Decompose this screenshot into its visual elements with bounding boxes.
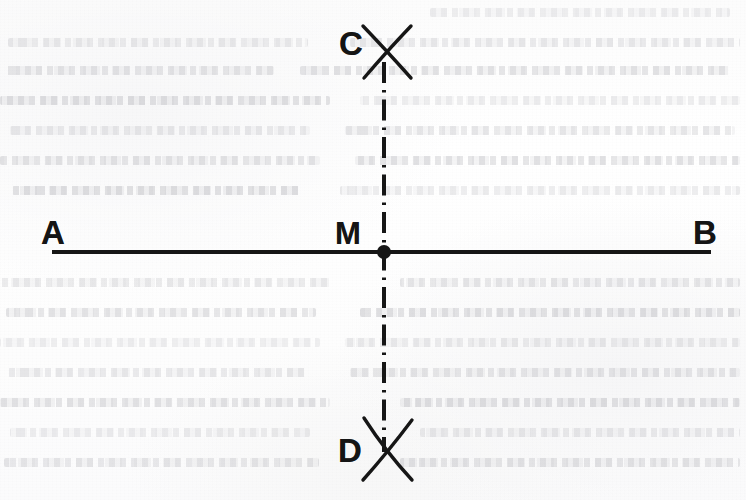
point-label-d: D [338, 434, 362, 467]
arc-intersection-c [363, 26, 411, 78]
point-label-a: A [41, 216, 65, 249]
scanned-geometry-figure: A B M C D [0, 0, 746, 500]
point-label-b: B [693, 216, 717, 249]
point-label-c: C [339, 27, 363, 60]
arc-intersection-d [363, 418, 412, 480]
construction-svg [0, 0, 746, 500]
ink-drawing-layer [0, 0, 746, 500]
point-label-m: M [335, 218, 361, 249]
midpoint-m-dot [377, 245, 391, 259]
